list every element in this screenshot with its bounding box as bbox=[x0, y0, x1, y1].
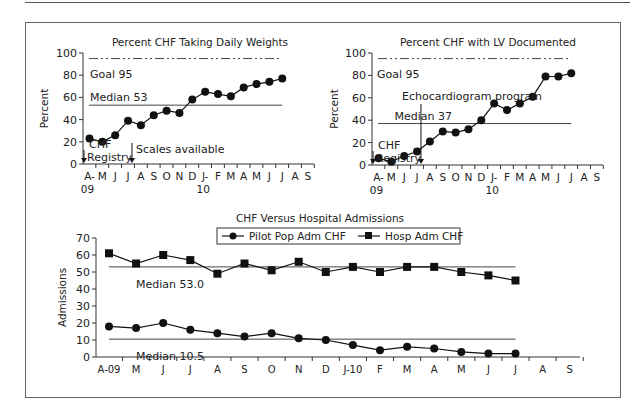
annotation-text: Echocardiogram program bbox=[402, 90, 542, 103]
data-point-circle bbox=[253, 80, 261, 88]
x-tick-label: M bbox=[226, 170, 235, 182]
data-point-circle bbox=[150, 111, 158, 119]
data-point-circle bbox=[214, 90, 222, 98]
y-axis-label: Percent bbox=[38, 89, 50, 129]
data-point-circle bbox=[240, 83, 248, 91]
data-point-circle bbox=[159, 319, 167, 327]
data-point-square bbox=[349, 263, 357, 271]
data-point-circle bbox=[265, 78, 273, 86]
x-tick-label: A bbox=[581, 171, 589, 183]
data-point-square bbox=[430, 263, 438, 271]
data-point-square bbox=[512, 277, 520, 285]
x-tick-label: J bbox=[569, 171, 573, 183]
x-tick-label: A bbox=[240, 170, 248, 182]
annotation-text: CHF bbox=[378, 139, 400, 152]
data-point-circle bbox=[452, 129, 460, 137]
data-point-circle bbox=[512, 350, 520, 358]
x-tick-label: A bbox=[137, 170, 145, 182]
chart-title: CHF Versus Hospital Admissions bbox=[236, 212, 404, 224]
data-point-square bbox=[186, 256, 194, 264]
x-tick-label: A bbox=[292, 170, 300, 182]
x-tick-label-year: 09 bbox=[81, 183, 94, 195]
chart-title: Percent CHF Taking Daily Weights bbox=[112, 36, 288, 48]
x-tick-label: J bbox=[267, 170, 271, 182]
x-tick-label: M bbox=[252, 170, 261, 182]
y-tick-label: 20 bbox=[352, 137, 366, 150]
y-tick-label: 30 bbox=[76, 300, 90, 313]
y-tick-label: 20 bbox=[76, 317, 90, 330]
data-point-circle bbox=[268, 329, 276, 337]
data-point-circle bbox=[554, 73, 562, 81]
x-tick-label: J bbox=[556, 171, 560, 183]
data-point-square bbox=[484, 271, 492, 279]
data-point-square bbox=[241, 260, 249, 268]
charts-canvas: Percent CHF Taking Daily Weights02040608… bbox=[0, 0, 641, 413]
x-tick-label: S bbox=[567, 364, 573, 375]
data-point-circle bbox=[137, 121, 145, 129]
y-tick-label: 50 bbox=[76, 266, 90, 279]
legend-marker-square bbox=[365, 232, 372, 239]
annotation-text: Scales available bbox=[136, 143, 225, 156]
x-tick-label: J bbox=[113, 170, 117, 182]
data-point-circle bbox=[295, 334, 303, 342]
data-point-circle bbox=[213, 329, 221, 337]
data-point-square bbox=[132, 260, 140, 268]
y-tick-label: 0 bbox=[83, 351, 90, 364]
data-point-circle bbox=[188, 96, 196, 104]
x-tick-label: D bbox=[477, 171, 485, 183]
data-point-circle bbox=[186, 326, 194, 334]
data-point-circle bbox=[278, 75, 286, 83]
y-tick-label: 70 bbox=[76, 232, 90, 245]
data-point-circle bbox=[241, 333, 249, 341]
x-tick-label: A bbox=[214, 364, 221, 375]
x-tick-label: J bbox=[280, 170, 284, 182]
data-point-circle bbox=[349, 341, 357, 349]
x-tick-label: F bbox=[504, 171, 510, 183]
x-tick-label: O bbox=[162, 170, 170, 182]
x-tick-label: M bbox=[98, 170, 107, 182]
goal-label: Goal 95 bbox=[377, 68, 420, 81]
x-tick-label: S bbox=[594, 171, 601, 183]
chart-admissions: CHF Versus Hospital Admissions0102030405… bbox=[56, 212, 583, 375]
y-axis-label: Percent bbox=[328, 89, 340, 129]
x-tick-label: M bbox=[541, 171, 550, 183]
x-tick-label: S bbox=[305, 170, 312, 182]
chart-lv-documented: Percent CHF with LV Documented0204060801… bbox=[328, 36, 603, 196]
y-tick-label: 0 bbox=[70, 158, 77, 171]
x-tick-label: J bbox=[486, 364, 490, 375]
x-tick-label: O bbox=[268, 364, 276, 375]
y-axis-label: Admissions bbox=[56, 268, 68, 327]
data-point-square bbox=[403, 263, 411, 271]
legend-label: Hosp Adm CHF bbox=[385, 230, 463, 242]
x-tick-label: A- bbox=[373, 171, 384, 183]
x-tick-label: A- bbox=[84, 170, 95, 182]
median-label: Median 53 bbox=[90, 91, 148, 104]
x-tick-label: A bbox=[426, 171, 434, 183]
x-tick-label: S bbox=[439, 171, 446, 183]
legend-marker-circle bbox=[230, 233, 237, 240]
data-point-circle bbox=[376, 346, 384, 354]
data-point-circle bbox=[201, 88, 209, 96]
x-tick-label: J bbox=[414, 171, 418, 183]
data-point-square bbox=[295, 258, 303, 266]
median-label: Median 37 bbox=[394, 110, 452, 123]
median-label: Median 53.0 bbox=[136, 278, 204, 291]
data-point-circle bbox=[111, 131, 119, 139]
x-tick-label: J bbox=[161, 364, 165, 375]
x-tick-label: J- bbox=[201, 170, 209, 182]
x-tick-label: M bbox=[457, 364, 466, 375]
y-tick-label: 20 bbox=[63, 136, 77, 149]
y-tick-label: 40 bbox=[63, 114, 77, 127]
x-tick-label: O bbox=[451, 171, 459, 183]
x-tick-label: A bbox=[539, 364, 546, 375]
legend: Pilot Pop Adm CHFHosp Adm CHF bbox=[217, 228, 463, 244]
x-tick-label: A bbox=[529, 171, 537, 183]
y-tick-label: 80 bbox=[63, 69, 77, 82]
data-point-circle bbox=[426, 137, 434, 145]
y-tick-label: 60 bbox=[63, 91, 77, 104]
data-point-square bbox=[322, 268, 330, 276]
data-point-circle bbox=[430, 345, 438, 353]
x-tick-label: N bbox=[465, 171, 473, 183]
data-point-circle bbox=[322, 336, 330, 344]
x-tick-label-year: 10 bbox=[485, 184, 498, 196]
